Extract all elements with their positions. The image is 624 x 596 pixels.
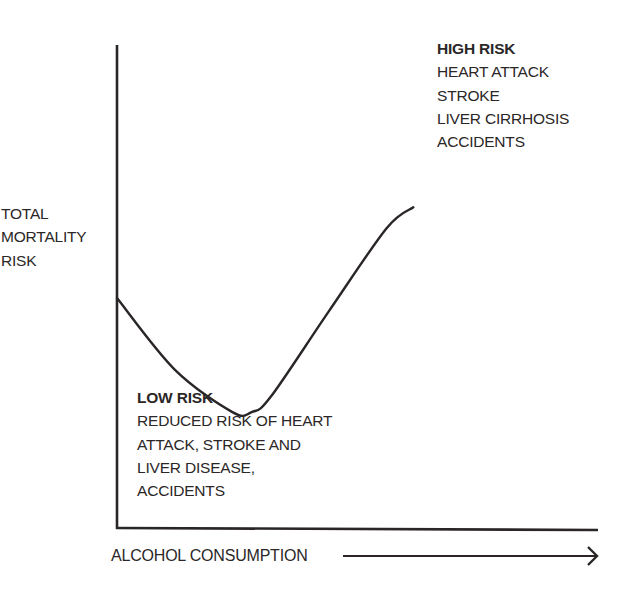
low-risk-item: ACCIDENTS — [137, 479, 332, 502]
y-axis-label-line: MORTALITY — [1, 225, 86, 248]
low-risk-item: LIVER DISEASE, — [137, 456, 332, 479]
y-axis-label: TOTAL MORTALITY RISK — [1, 202, 86, 272]
mortality-risk-curve — [117, 207, 413, 416]
high-risk-item: STROKE — [437, 84, 569, 107]
x-axis — [116, 528, 598, 530]
low-risk-title: LOW RISK — [137, 386, 332, 409]
x-axis-label: ALCOHOL CONSUMPTION — [111, 544, 308, 567]
high-risk-item: LIVER CIRRHOSIS — [437, 107, 569, 130]
low-risk-item: ATTACK, STROKE AND — [137, 433, 332, 456]
low-risk-item: REDUCED RISK OF HEART — [137, 409, 332, 432]
high-risk-item: HEART ATTACK — [437, 60, 569, 83]
high-risk-item: ACCIDENTS — [437, 130, 569, 153]
y-axis-label-line: TOTAL — [1, 202, 86, 225]
high-risk-title: HIGH RISK — [437, 37, 569, 60]
low-risk-annotation: LOW RISK REDUCED RISK OF HEART ATTACK, S… — [137, 386, 332, 502]
y-axis-label-line: RISK — [1, 249, 86, 272]
high-risk-annotation: HIGH RISK HEART ATTACK STROKE LIVER CIRR… — [437, 37, 569, 153]
